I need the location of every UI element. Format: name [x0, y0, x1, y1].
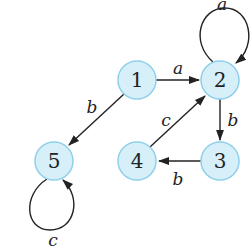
edge-2-2-loop	[200, 8, 249, 63]
node-label: 1	[131, 68, 144, 92]
node-label: 5	[48, 149, 61, 173]
node-5: 5	[35, 142, 73, 180]
node-2: 2	[201, 61, 239, 99]
graph-canvas: a a b b b c c 1 2 3 4 5	[0, 0, 252, 250]
edge-label-2-2: a	[217, 0, 227, 14]
node-4: 4	[118, 142, 156, 180]
edge-4-2	[150, 96, 205, 147]
node-label: 3	[214, 149, 227, 173]
edge-label-3-4: b	[173, 169, 184, 189]
node-label: 4	[131, 149, 144, 173]
edge-label-4-2: c	[161, 110, 171, 130]
node-1: 1	[118, 61, 156, 99]
edge-label-1-5: b	[87, 97, 98, 117]
node-3: 3	[201, 142, 239, 180]
edge-label-2-3: b	[228, 110, 239, 130]
edge-label-1-2: a	[173, 58, 183, 78]
edge-label-5-5: c	[48, 230, 58, 250]
edge-5-5-loop	[30, 179, 74, 230]
node-label: 2	[214, 68, 227, 92]
